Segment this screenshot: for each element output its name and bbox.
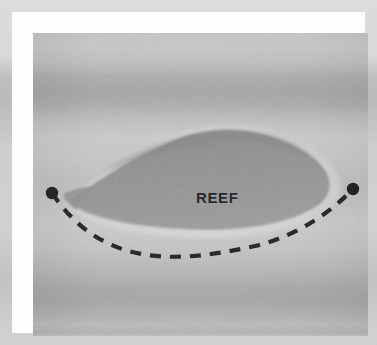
screenshot-root: REEF <box>0 0 377 345</box>
reef-label: REEF <box>196 189 238 206</box>
film-grain <box>33 33 368 336</box>
photo-plate: REEF <box>33 33 368 336</box>
photo-white-border: REEF <box>12 12 365 333</box>
reef-overlay <box>33 33 368 336</box>
